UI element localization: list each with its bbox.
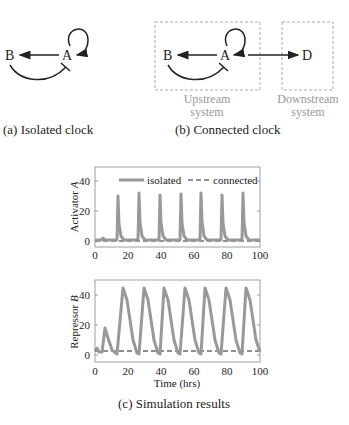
svg-text:40: 40 [79,289,91,301]
upstream-label-line1: Upstream [184,92,231,106]
x-ticks: 020406080100 [92,249,269,261]
caption-b: (b) Connected clock [175,122,281,137]
svg-text:60: 60 [189,365,201,377]
caption-c: (c) Simulation results [118,396,230,411]
svg-text:20: 20 [123,249,135,261]
repression-b-to-a [10,65,66,80]
isolated-series [95,193,260,240]
y-ticks: 02040 [79,289,91,361]
repressor-chart: 02040 020406080100 Repressor B Time (hrs… [68,280,269,390]
downstream-label-line2: system [291,105,325,119]
svg-text:20: 20 [123,365,135,377]
node-b: B [163,48,172,63]
svg-text:0: 0 [92,365,98,377]
node-d: D [302,48,312,63]
panel-b: B A D Upstream system Downstream system [155,22,339,119]
node-a: A [220,48,231,63]
svg-text:40: 40 [156,365,168,377]
svg-text:20: 20 [79,205,91,217]
x-ticks: 020406080100 [92,365,269,377]
x-axis-label: Time (hrs) [154,377,201,390]
y-axis-label: Repressor B [68,295,80,349]
svg-text:40: 40 [79,175,91,187]
svg-text:80: 80 [222,249,234,261]
svg-text:100: 100 [252,365,269,377]
svg-text:0: 0 [85,349,91,361]
svg-text:connected: connected [213,174,258,186]
caption-a: (a) Isolated clock [3,122,94,137]
svg-text:80: 80 [222,365,234,377]
svg-text:100: 100 [252,249,269,261]
isolated-clock-diagram: B A B A D Upstream system Downstream sys… [0,0,349,425]
upstream-label-line2: system [190,105,224,119]
legend: isolated connected [119,174,258,186]
svg-text:0: 0 [85,235,91,247]
node-a: A [62,48,73,63]
y-ticks: 02040 [79,175,91,247]
svg-text:40: 40 [156,249,168,261]
panel-a: B A [5,29,88,79]
downstream-label-line1: Downstream [277,92,339,106]
activator-chart: 02040 020406080100 Activator A isolated … [68,167,269,261]
y-axis-label: Activator A [68,181,80,232]
svg-text:20: 20 [79,319,91,331]
svg-text:isolated: isolated [147,174,182,186]
isolated-series [95,288,260,354]
node-b: B [5,48,14,63]
svg-text:0: 0 [92,249,98,261]
svg-text:60: 60 [189,249,201,261]
repression-b-to-a [168,65,224,80]
